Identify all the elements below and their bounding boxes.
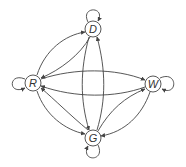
node-w-label: W xyxy=(148,78,160,90)
edge-r-to-w xyxy=(41,71,145,80)
edge-w-to-g xyxy=(101,92,150,136)
edge-w-to-r xyxy=(41,86,145,95)
edge-d-to-g xyxy=(82,37,89,130)
self-loop-d xyxy=(86,10,99,22)
edge-g-to-d xyxy=(97,37,104,130)
edge-r-to-g xyxy=(37,91,85,134)
node-d: D xyxy=(85,21,101,37)
node-g-label: G xyxy=(89,132,98,144)
self-loop-w xyxy=(160,77,174,91)
node-w: W xyxy=(145,76,161,92)
node-r: R xyxy=(25,75,41,91)
node-r-label: R xyxy=(29,77,37,89)
node-g: G xyxy=(85,130,101,146)
self-loop-g xyxy=(86,145,99,158)
state-diagram: D R W G xyxy=(0,0,186,167)
node-d-label: D xyxy=(89,23,97,35)
self-loop-r xyxy=(12,78,25,90)
